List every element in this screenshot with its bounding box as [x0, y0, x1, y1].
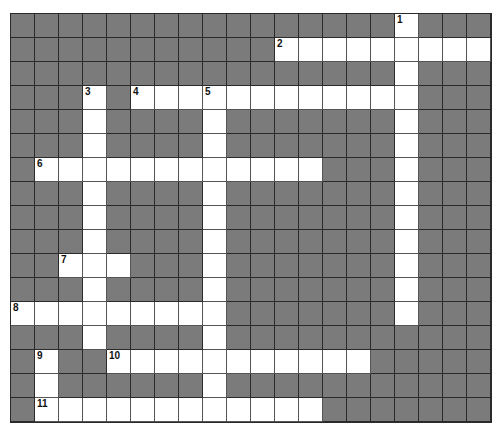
answer-cell[interactable] [203, 326, 227, 350]
answer-cell[interactable] [227, 350, 251, 374]
answer-cell[interactable] [395, 206, 419, 230]
answer-cell[interactable] [131, 350, 155, 374]
answer-cell[interactable] [419, 38, 443, 62]
answer-cell[interactable] [251, 86, 275, 110]
answer-cell[interactable]: 3 [83, 86, 107, 110]
answer-cell[interactable]: 5 [203, 86, 227, 110]
answer-cell[interactable] [155, 398, 179, 422]
answer-cell[interactable] [203, 398, 227, 422]
answer-cell[interactable] [299, 38, 323, 62]
answer-cell[interactable]: 10 [107, 350, 131, 374]
answer-cell[interactable]: 8 [11, 302, 35, 326]
answer-cell[interactable]: 11 [35, 398, 59, 422]
answer-cell[interactable] [395, 158, 419, 182]
answer-cell[interactable] [179, 350, 203, 374]
answer-cell[interactable] [179, 86, 203, 110]
answer-cell[interactable] [83, 230, 107, 254]
answer-cell[interactable] [203, 302, 227, 326]
answer-cell[interactable] [323, 38, 347, 62]
answer-cell[interactable] [443, 38, 467, 62]
answer-cell[interactable] [347, 86, 371, 110]
answer-cell[interactable] [395, 110, 419, 134]
answer-cell[interactable] [299, 158, 323, 182]
answer-cell[interactable] [275, 158, 299, 182]
answer-cell[interactable] [83, 206, 107, 230]
answer-cell[interactable] [83, 326, 107, 350]
answer-cell[interactable] [227, 398, 251, 422]
answer-cell[interactable] [371, 38, 395, 62]
answer-cell[interactable] [59, 398, 83, 422]
answer-cell[interactable] [203, 278, 227, 302]
answer-cell[interactable] [467, 38, 491, 62]
answer-cell[interactable] [203, 374, 227, 398]
answer-cell[interactable] [83, 158, 107, 182]
answer-cell[interactable] [251, 158, 275, 182]
answer-cell[interactable] [395, 134, 419, 158]
answer-cell[interactable]: 9 [35, 350, 59, 374]
answer-cell[interactable] [395, 230, 419, 254]
answer-cell[interactable] [59, 158, 83, 182]
answer-cell[interactable]: 6 [35, 158, 59, 182]
answer-cell[interactable] [395, 182, 419, 206]
answer-cell[interactable] [203, 350, 227, 374]
answer-cell[interactable] [203, 182, 227, 206]
answer-cell[interactable] [155, 86, 179, 110]
answer-cell[interactable]: 4 [131, 86, 155, 110]
answer-cell[interactable] [155, 302, 179, 326]
answer-cell[interactable]: 2 [275, 38, 299, 62]
answer-cell[interactable] [275, 398, 299, 422]
answer-cell[interactable] [203, 158, 227, 182]
answer-cell[interactable] [323, 86, 347, 110]
answer-cell[interactable] [371, 86, 395, 110]
answer-cell[interactable] [203, 134, 227, 158]
answer-cell[interactable] [35, 374, 59, 398]
answer-cell[interactable] [83, 302, 107, 326]
answer-cell[interactable] [203, 206, 227, 230]
answer-cell[interactable] [83, 134, 107, 158]
answer-cell[interactable] [179, 158, 203, 182]
answer-cell[interactable] [299, 86, 323, 110]
answer-cell[interactable] [59, 302, 83, 326]
answer-cell[interactable] [227, 158, 251, 182]
answer-cell[interactable] [107, 398, 131, 422]
answer-cell[interactable] [83, 254, 107, 278]
block-cell [107, 110, 131, 134]
answer-cell[interactable] [83, 110, 107, 134]
answer-cell[interactable] [83, 278, 107, 302]
answer-cell[interactable] [251, 398, 275, 422]
answer-cell[interactable] [227, 86, 251, 110]
answer-cell[interactable] [131, 302, 155, 326]
answer-cell[interactable] [299, 350, 323, 374]
answer-cell[interactable] [347, 38, 371, 62]
answer-cell[interactable] [179, 398, 203, 422]
answer-cell[interactable] [395, 38, 419, 62]
answer-cell[interactable] [107, 254, 131, 278]
answer-cell[interactable] [155, 158, 179, 182]
answer-cell[interactable]: 7 [59, 254, 83, 278]
answer-cell[interactable] [395, 302, 419, 326]
answer-cell[interactable] [107, 158, 131, 182]
answer-cell[interactable] [35, 302, 59, 326]
answer-cell[interactable] [155, 350, 179, 374]
answer-cell[interactable] [395, 86, 419, 110]
answer-cell[interactable] [395, 254, 419, 278]
answer-cell[interactable] [83, 398, 107, 422]
answer-cell[interactable] [395, 62, 419, 86]
answer-cell[interactable] [299, 398, 323, 422]
answer-cell[interactable] [251, 350, 275, 374]
answer-cell[interactable] [323, 350, 347, 374]
answer-cell[interactable] [107, 302, 131, 326]
answer-cell[interactable] [131, 398, 155, 422]
answer-cell[interactable] [203, 230, 227, 254]
answer-cell[interactable] [131, 158, 155, 182]
answer-cell[interactable] [347, 350, 371, 374]
answer-cell[interactable]: 1 [395, 14, 419, 38]
answer-cell[interactable] [275, 350, 299, 374]
answer-cell[interactable] [83, 182, 107, 206]
answer-cell[interactable] [179, 302, 203, 326]
answer-cell[interactable] [203, 110, 227, 134]
answer-cell[interactable] [395, 278, 419, 302]
answer-cell[interactable] [203, 254, 227, 278]
answer-cell[interactable] [275, 86, 299, 110]
block-cell [107, 134, 131, 158]
